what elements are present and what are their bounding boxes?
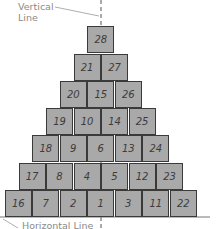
vertical-line-label-2: Line	[18, 12, 54, 23]
pyramid-box: 28	[87, 26, 114, 53]
pyramid-diagram: Vertical Line Horizontal Line 2821272015…	[0, 0, 219, 229]
pyramid-box: 12	[129, 163, 156, 190]
pyramid-box: 21	[74, 54, 101, 81]
pyramid-box: 13	[115, 135, 142, 162]
pyramid-box: 14	[101, 108, 128, 135]
pyramid-box: 18	[32, 135, 59, 162]
pyramid-box: 26	[115, 81, 142, 108]
pyramid-box: 25	[129, 108, 156, 135]
pyramid-box: 5	[101, 163, 128, 190]
pyramid-box: 6	[87, 135, 114, 162]
vertical-line-label-1: Vertical	[18, 1, 54, 12]
horizontal-line-label: Horizontal Line	[22, 220, 93, 229]
pyramid-box: 23	[156, 163, 183, 190]
pyramid-box: 8	[46, 163, 73, 190]
pyramid-box: 10	[74, 108, 101, 135]
pyramid-box: 15	[87, 81, 114, 108]
pyramid-box: 7	[32, 190, 59, 217]
pyramid-box: 11	[142, 190, 169, 217]
pyramid-box: 2	[60, 190, 87, 217]
pyramid-box: 16	[5, 190, 32, 217]
pyramid-box: 1	[87, 190, 114, 217]
pyramid-box: 3	[115, 190, 142, 217]
pyramid-box: 24	[142, 135, 169, 162]
pyramid-box: 19	[46, 108, 73, 135]
vertical-line-leader	[55, 7, 99, 16]
vertical-line-label: Vertical Line	[18, 1, 54, 23]
pyramid-box: 20	[60, 81, 87, 108]
pyramid-box: 22	[170, 190, 197, 217]
pyramid-box: 17	[19, 163, 46, 190]
pyramid-box: 27	[101, 54, 128, 81]
pyramid-box: 9	[60, 135, 87, 162]
pyramid-box: 4	[74, 163, 101, 190]
horizontal-line-leader	[3, 219, 18, 228]
